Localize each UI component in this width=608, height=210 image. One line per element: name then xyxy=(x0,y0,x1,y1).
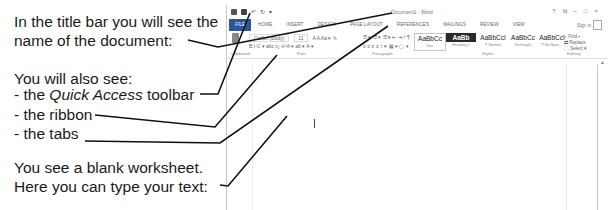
word-app-icon xyxy=(231,9,237,15)
tab-mailings[interactable]: MAILINGS xyxy=(436,19,473,31)
tab-view[interactable]: VIEW xyxy=(506,19,532,31)
font-grow-shrink[interactable]: A A Aa ▾ ✎ xyxy=(313,35,337,41)
caption-tabs: - the tabs xyxy=(14,124,79,143)
style-sample: AaBbCc xyxy=(415,34,445,43)
account-icon xyxy=(593,20,602,30)
paragraph-row1[interactable]: ☰ ▾ ☰ ▾ ☰ ▾ ⇤ ⇥ ↕ ¶ xyxy=(363,34,410,40)
style-name: ¶ No Spac... xyxy=(537,42,567,48)
close-icon[interactable]: × xyxy=(594,8,598,15)
font-name-select[interactable]: Calibri (Body) xyxy=(249,34,289,42)
window-controls: ? ⧉ – □ × xyxy=(552,8,598,15)
font-size-select[interactable]: 11 xyxy=(294,34,307,42)
format-row[interactable]: B I U ▾ abc x₂ x² A ▾ ab ▾ A ▾ xyxy=(249,43,314,49)
redo-icon[interactable]: ↻ xyxy=(260,8,265,16)
group-label-clipboard: Clipboard xyxy=(231,51,250,56)
tab-page-layout[interactable]: PAGE LAYOUT xyxy=(343,19,390,31)
group-label-editing: Editing xyxy=(567,51,580,56)
editing-group: ⌕ Find ▾ ⇄ Replace ⬚ Select ▾ xyxy=(564,34,587,52)
tab-file[interactable]: FILE xyxy=(229,19,251,31)
quick-access-toolbar: ↶ ↻ ▾ xyxy=(231,8,272,16)
caption-title-bar-line2: name of the document: xyxy=(14,31,173,50)
caption-ribbon: - the ribbon xyxy=(14,105,92,124)
minimize-icon[interactable]: – xyxy=(574,8,577,15)
save-icon[interactable] xyxy=(241,9,247,15)
style-sample: AaBbCcI xyxy=(537,33,567,42)
ribbon-tabs: FILE HOME INSERT DESIGN PAGE LAYOUT REFE… xyxy=(227,19,608,31)
group-label-styles: Styles xyxy=(482,51,494,56)
caption-qat-prefix: - the xyxy=(14,86,49,103)
maximize-icon[interactable]: □ xyxy=(584,8,588,15)
style-name: Heading 2 xyxy=(446,42,476,48)
tab-design[interactable]: DESIGN xyxy=(311,19,343,31)
style-doc[interactable]: AaBbCcDoc xyxy=(414,33,446,51)
style-sample: AaBb xyxy=(446,33,476,42)
style-sample: AaBbCc xyxy=(508,33,538,42)
title-bar: ↶ ↻ ▾ Document1 - Word ? ⧉ – □ × xyxy=(227,5,608,19)
style-name: Doc xyxy=(415,43,445,49)
paragraph-row2[interactable]: ≡ ≡ ≡ ≡ ↕ ▾ ▦ ▾ ▢ ▾ xyxy=(363,43,409,49)
caption-qat-italic: Quick Access xyxy=(49,86,142,103)
style-name: ¶ Normal xyxy=(478,42,508,48)
sign-in[interactable]: Sign in xyxy=(577,20,602,30)
style-sample: AaBbCcI xyxy=(478,33,508,42)
replace-label: Replace xyxy=(569,40,586,45)
tab-references[interactable]: REFERENCES xyxy=(390,19,436,31)
text-cursor xyxy=(314,119,315,128)
ribbon-display-icon[interactable]: ⧉ xyxy=(563,8,567,15)
paste-button[interactable] xyxy=(232,33,239,43)
word-window: ↶ ↻ ▾ Document1 - Word ? ⧉ – □ × FILE HO… xyxy=(226,5,608,210)
caption-qat-suffix: toolbar xyxy=(143,86,195,103)
tab-insert[interactable]: INSERT xyxy=(279,19,310,31)
find-label: Find ▾ xyxy=(568,34,580,39)
style-name: Verleegd1 xyxy=(508,42,538,48)
ribbon: Calibri (Body) 11 A A Aa ▾ ✎ B I U ▾ abc… xyxy=(227,31,608,59)
customize-qat-icon[interactable]: ▾ xyxy=(269,8,272,16)
style-no-spacing[interactable]: AaBbCcI¶ No Spac... xyxy=(537,33,567,49)
paste-icon xyxy=(232,33,239,43)
document-title: Document1 - Word xyxy=(391,9,433,15)
scroll-up-icon[interactable]: ▲ xyxy=(600,59,605,65)
tab-home[interactable]: HOME xyxy=(251,19,279,31)
undo-icon[interactable]: ↶ xyxy=(251,8,256,16)
caption-title-bar-line1: In the title bar you will see the xyxy=(14,12,218,31)
caption-quick-access: - the Quick Access toolbar xyxy=(14,85,194,104)
vertical-scrollbar[interactable]: ▲ xyxy=(597,65,608,210)
group-label-font: Font xyxy=(297,51,306,56)
caption-blank-line1: You see a blank worksheet. xyxy=(14,158,203,177)
sign-in-label: Sign in xyxy=(577,23,591,28)
document-page[interactable] xyxy=(252,64,567,210)
caption-blank-line2: Here you can type your text: xyxy=(14,177,208,196)
style-heading-2[interactable]: AaBbHeading 2 xyxy=(446,33,476,49)
tab-review[interactable]: REVIEW xyxy=(473,19,506,31)
font-controls: Calibri (Body) 11 A A Aa ▾ ✎ xyxy=(249,34,337,42)
group-label-paragraph: Paragraph xyxy=(372,51,393,56)
help-icon[interactable]: ? xyxy=(552,8,555,15)
document-canvas xyxy=(227,59,599,210)
style-normal[interactable]: AaBbCcI¶ Normal xyxy=(478,33,508,49)
style-verleegd[interactable]: AaBbCcVerleegd1 xyxy=(508,33,538,49)
